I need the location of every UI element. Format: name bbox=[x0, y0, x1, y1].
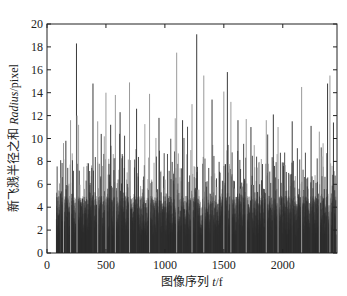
y-tick-label: 18 bbox=[31, 40, 43, 54]
y-axis-label: 新飞溅半径之和 Radius/pixel bbox=[6, 63, 21, 211]
y-tick-label: 8 bbox=[37, 154, 43, 168]
x-axis-label: 图像序列 t/f bbox=[161, 274, 223, 289]
chart: 02468101214161820 0500100015002000 图像序列 … bbox=[0, 0, 347, 296]
y-tick-label: 16 bbox=[31, 63, 43, 77]
y-tick-label: 4 bbox=[37, 200, 43, 214]
y-tick-label: 0 bbox=[37, 246, 43, 260]
x-tick-label: 1000 bbox=[153, 258, 177, 272]
y-tick-label: 6 bbox=[37, 177, 43, 191]
y-tick-label: 10 bbox=[31, 132, 43, 146]
y-tick-label: 2 bbox=[37, 223, 43, 237]
x-tick-label: 500 bbox=[97, 258, 115, 272]
y-tick-label: 12 bbox=[31, 109, 43, 123]
x-tick-label: 0 bbox=[44, 258, 50, 272]
bar-series bbox=[56, 34, 335, 253]
x-tick-label: 1500 bbox=[212, 258, 236, 272]
y-tick-label: 20 bbox=[31, 17, 43, 31]
x-tick-label: 2000 bbox=[271, 258, 295, 272]
y-tick-label: 14 bbox=[31, 86, 43, 100]
